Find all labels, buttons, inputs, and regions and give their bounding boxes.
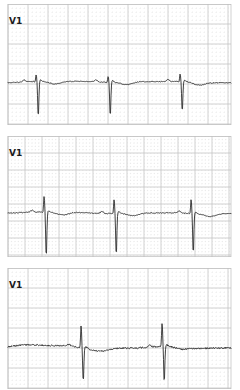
lead-label-strip-3: V1	[9, 281, 22, 290]
ecg-strip-3	[0, 268, 240, 389]
lead-label-strip-2: V1	[9, 149, 22, 158]
lead-label-strip-1: V1	[9, 17, 22, 26]
ecg-trace-1	[0, 4, 240, 125]
ecg-strip-2	[0, 136, 240, 257]
ecg-trace-3	[0, 268, 240, 389]
ecg-sheet: V1 V1 V1	[0, 0, 240, 390]
ecg-trace-2	[0, 136, 240, 257]
ecg-strip-1	[0, 4, 240, 125]
